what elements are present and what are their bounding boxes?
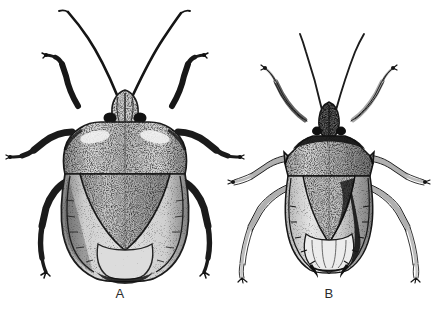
insect-a-abdomen <box>61 174 188 284</box>
panel-label-b: B <box>319 286 339 301</box>
insect-illustration-svg <box>0 0 432 313</box>
eye-b-left <box>312 127 322 136</box>
eye-b-right <box>336 127 346 136</box>
insect-a-pronotum <box>64 122 187 174</box>
figure-container: A B <box>0 0 432 313</box>
panel-label-a: A <box>110 286 130 301</box>
